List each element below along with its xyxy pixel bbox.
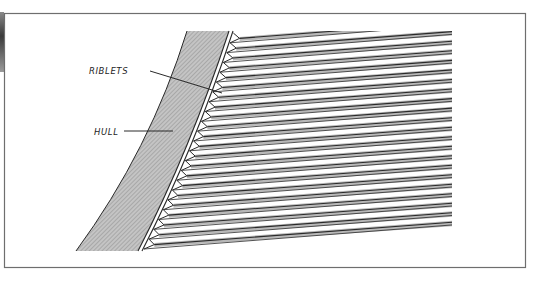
riblets-label: RIBLETS xyxy=(89,66,128,76)
hull-label: HULL xyxy=(94,127,118,137)
hull xyxy=(76,31,233,251)
riblets-hull-diagram: RIBLETS HULL xyxy=(0,0,539,283)
